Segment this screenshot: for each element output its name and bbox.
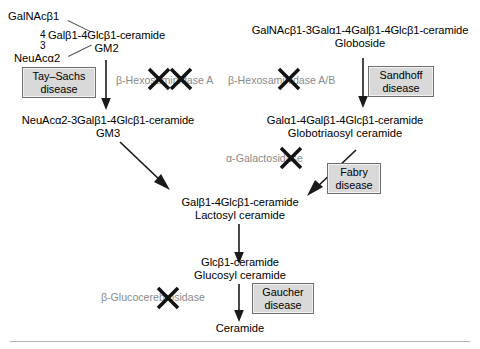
- block-x-icon-alpha-galactosidase: [278, 145, 304, 171]
- arrow-gm3-to-lactosyl: [118, 140, 178, 196]
- disease-box-fabry[interactable]: Fabry disease: [327, 163, 381, 194]
- disease-tay-sachs-line1: Tay–Sachs: [28, 70, 90, 83]
- node-gm2-branch-galnac: GalNAcβ1: [8, 10, 59, 22]
- disease-sandhoff-line1: Sandhoff: [374, 69, 428, 82]
- node-gm3: NeuAcα2-3Galβ1-4Glcβ1-ceramide GM3: [8, 114, 208, 140]
- branch-number-4: 4: [40, 29, 46, 40]
- disease-gaucher-line2: disease: [258, 299, 308, 312]
- arrow-gm2-to-gm3: [98, 60, 118, 112]
- block-x-icon-hexosaminidase-ab: [276, 66, 302, 92]
- arrow-glucosyl-to-ceramide: [231, 284, 251, 326]
- node-globotriaosyl-ceramide: Galα1-4Galβ1-4Glcβ1-ceramide Globotriaos…: [250, 114, 440, 140]
- disease-fabry-line2: disease: [333, 179, 375, 192]
- block-x-icon-hexosaminidase-a-2: [168, 66, 194, 92]
- branch-number-3: 3: [40, 40, 46, 51]
- node-gm3-name: GM3: [8, 127, 208, 140]
- node-glucosyl-formula: Glcβ1-ceramide: [140, 256, 340, 269]
- node-globoside-formula: GalNAcβ1-3Galα1-4Galβ1-4Glcβ1-ceramide: [240, 24, 480, 37]
- node-lactosyl-name: Lactosyl ceramide: [130, 209, 350, 222]
- node-gb3-name: Globotriaosyl ceramide: [250, 127, 440, 140]
- bottom-divider: [10, 341, 470, 342]
- node-gm2: Galβ1-4Glcβ1-ceramide GM2: [48, 29, 165, 55]
- node-globoside-name: Globoside: [240, 37, 480, 50]
- disease-gaucher-line1: Gaucher: [258, 286, 308, 299]
- pathway-diagram: GalNAcβ1 NeuAcα2 4 3 Galβ1-4Glcβ1-cerami…: [0, 0, 480, 349]
- enzyme-glucocerebrosidase: β-Glucocerebrosidase: [101, 291, 205, 303]
- disease-box-sandhoff[interactable]: Sandhoff disease: [368, 66, 434, 97]
- node-globoside: GalNAcβ1-3Galα1-4Galβ1-4Glcβ1-ceramide G…: [240, 24, 480, 50]
- node-glucosyl-name: Glucosyl ceramide: [140, 269, 340, 282]
- node-ceramide: Ceramide: [160, 322, 320, 335]
- disease-sandhoff-line2: disease: [374, 82, 428, 95]
- node-ceramide-name: Ceramide: [160, 322, 320, 335]
- block-x-icon-glucocerebrosidase: [155, 285, 181, 311]
- disease-tay-sachs-line2: disease: [28, 83, 90, 96]
- node-gm2-formula: Galβ1-4Glcβ1-ceramide: [48, 29, 165, 42]
- disease-box-gaucher[interactable]: Gaucher disease: [252, 283, 314, 314]
- node-gm3-formula: NeuAcα2-3Galβ1-4Glcβ1-ceramide: [8, 114, 208, 127]
- disease-box-tay-sachs[interactable]: Tay–Sachs disease: [22, 67, 96, 98]
- node-lactosyl-formula: Galβ1-4Glcβ1-ceramide: [130, 196, 350, 209]
- node-lactosyl-ceramide: Galβ1-4Glcβ1-ceramide Lactosyl ceramide: [130, 196, 350, 222]
- node-gb3-formula: Galα1-4Galβ1-4Glcβ1-ceramide: [250, 114, 440, 127]
- disease-fabry-line1: Fabry: [333, 166, 375, 179]
- node-gm2-name: GM2: [48, 42, 165, 55]
- node-glucosyl-ceramide: Glcβ1-ceramide Glucosyl ceramide: [140, 256, 340, 282]
